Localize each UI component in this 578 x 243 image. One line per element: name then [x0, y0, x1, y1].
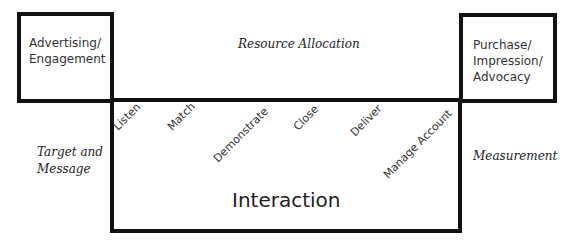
- measurement-label: Measurement: [473, 148, 557, 165]
- purchase-line3: Advocacy: [473, 69, 543, 85]
- purchase-line2: Impression/: [473, 53, 543, 69]
- interaction-label: Interaction: [232, 188, 341, 212]
- purchase-advocacy-box: Purchase/ Impression/ Advocacy: [459, 13, 557, 103]
- resource-allocation-label: Resource Allocation: [238, 36, 360, 53]
- target-message-label: Target and Message: [37, 144, 103, 178]
- target-line1: Target and: [37, 144, 103, 161]
- interaction-box: [110, 98, 462, 233]
- target-line2: Message: [37, 161, 103, 178]
- purchase-line1: Purchase/: [473, 37, 543, 53]
- advertising-line2: Engagement: [29, 51, 106, 67]
- purchase-label: Purchase/ Impression/ Advocacy: [473, 37, 543, 85]
- advertising-engagement-box: Advertising/ Engagement: [17, 12, 114, 103]
- advertising-line1: Advertising/: [29, 35, 106, 51]
- advertising-label: Advertising/ Engagement: [29, 35, 106, 67]
